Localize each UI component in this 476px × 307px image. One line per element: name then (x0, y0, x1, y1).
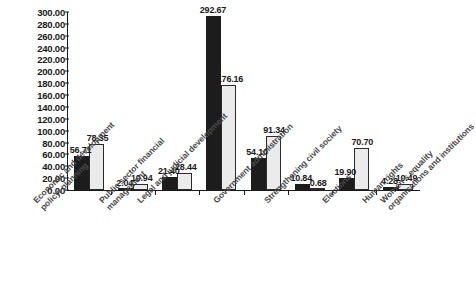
x-axis-tick-mark (288, 190, 289, 195)
y-axis-tick-label: 140.00 (7, 101, 65, 112)
y-axis-tick-label: 80.00 (7, 137, 65, 148)
y-axis-tick-label: 280.00 (7, 18, 65, 29)
x-axis-tick-mark (244, 190, 245, 195)
y-axis-tick-label: 100.00 (7, 125, 65, 136)
y-axis-tick-label: 60.00 (7, 149, 65, 160)
y-axis-tick-label: 240.00 (7, 42, 65, 53)
bar-series-1 (206, 16, 221, 190)
y-axis-tick-label: 260.00 (7, 30, 65, 41)
y-axis-tick-label: 180.00 (7, 78, 65, 89)
x-axis-tick-mark (199, 190, 200, 195)
y-axis-tick-label: 200.00 (7, 66, 65, 77)
y-axis-tick-label: 300.00 (7, 7, 65, 18)
bar-series-2 (310, 188, 325, 190)
y-axis-labels: 0.0020.0040.0060.0080.00100.00120.00140.… (0, 12, 65, 191)
y-axis-tick-label: 220.00 (7, 54, 65, 65)
bar-value-label: 70.70 (345, 137, 379, 147)
bar-value-label: 176.16 (213, 74, 247, 84)
y-axis-tick-label: 160.00 (7, 90, 65, 101)
bar-value-label: 292.67 (196, 5, 230, 15)
y-axis-tick-label: 120.00 (7, 113, 65, 124)
plot-area: 56.7178.352.0410.9421.4028.44292.67176.1… (67, 12, 420, 190)
y-axis-tick-label: 40.00 (7, 161, 65, 172)
